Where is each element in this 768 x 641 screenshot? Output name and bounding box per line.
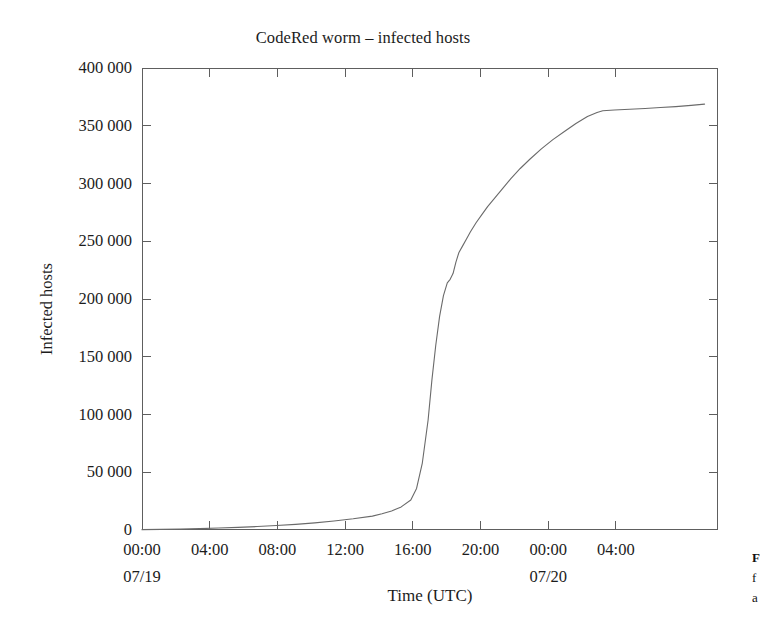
caption-line-1: F: [752, 548, 768, 568]
x-tick-label: 00:00: [529, 540, 567, 560]
chart-figure: CodeRed worm – infected hosts 0 50 000 1…: [0, 0, 768, 641]
x-tick-label: 12:00: [326, 540, 364, 560]
y-tick-label: 300 000: [12, 174, 132, 194]
plot-area: [142, 68, 718, 530]
caption-line-2: f: [752, 568, 768, 588]
caption-line-3: a: [752, 588, 768, 608]
x-tick-label: 08:00: [259, 540, 297, 560]
x-tick-sublabel: 07/20: [529, 567, 567, 587]
y-tick-label: 0: [12, 520, 132, 540]
x-tick-sublabel: 07/19: [123, 567, 161, 587]
y-tick-label: 400 000: [12, 58, 132, 78]
y-tick-label: 350 000: [12, 116, 132, 136]
x-tick-label: 04:00: [191, 540, 229, 560]
x-tick-label: 00:00: [123, 540, 161, 560]
x-tick-label: 16:00: [394, 540, 432, 560]
caption-fragment: F f a: [752, 548, 768, 628]
y-tick-label: 200 000: [12, 289, 132, 309]
x-tick-label: 04:00: [597, 540, 635, 560]
data-series-line: [142, 104, 705, 530]
y-tick-label: 100 000: [12, 405, 132, 425]
x-tick-label: 20:00: [462, 540, 500, 560]
y-tick-label: 150 000: [12, 347, 132, 367]
y-tick-label: 50 000: [12, 462, 132, 482]
y-axis-title: Infected hosts: [37, 219, 57, 399]
y-tick-label: 250 000: [12, 231, 132, 251]
axis-ticks: [142, 68, 718, 530]
x-axis-title: Time (UTC): [142, 586, 718, 606]
